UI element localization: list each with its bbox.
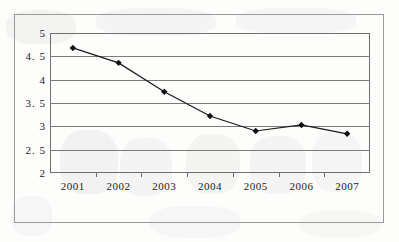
data-point-marker (207, 113, 213, 119)
series-markers (70, 45, 351, 137)
data-point-marker (161, 89, 167, 95)
series-line (73, 48, 347, 134)
data-point-marker (253, 128, 259, 134)
line-chart: 54. 543. 532. 52 20012002200320042005200… (0, 0, 399, 242)
data-point-marker (115, 60, 121, 66)
data-point-marker (70, 45, 76, 51)
data-point-marker (344, 131, 350, 137)
data-point-marker (298, 122, 304, 128)
data-series-layer (0, 0, 399, 242)
chart-canvas: 54. 543. 532. 52 20012002200320042005200… (0, 0, 399, 242)
